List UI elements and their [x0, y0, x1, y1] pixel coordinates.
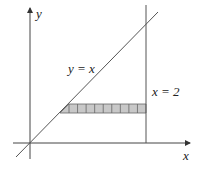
vertical-line-label: x = 2: [151, 84, 180, 99]
line-y-equals-x: [16, 12, 158, 157]
horizontal-strip: [60, 104, 146, 113]
y-axis-label: y: [34, 6, 42, 21]
diagonal-line-label: y = x: [66, 61, 95, 76]
region-diagram: y x y = x x = 2: [0, 0, 202, 170]
x-axis-label: x: [182, 148, 189, 163]
